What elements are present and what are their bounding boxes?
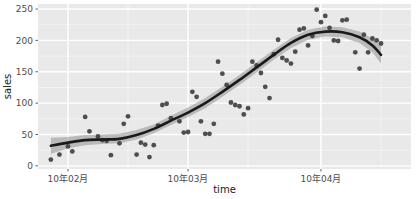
- scatter-plot-svg: 050100150200250 10年02月10年03月10年04月 time …: [0, 0, 417, 199]
- x-tick-label: 10年04月: [301, 173, 342, 184]
- chart-container: 050100150200250 10年02月10年03月10年04月 time …: [0, 0, 417, 199]
- y-axis-title: sales: [2, 74, 13, 99]
- y-tick-label: 100: [16, 98, 33, 108]
- y-tick-label: 0: [27, 161, 33, 171]
- y-tick-label: 250: [16, 4, 33, 14]
- y-tick-label: 150: [16, 67, 33, 77]
- x-tick-label: 10年03月: [168, 173, 209, 184]
- y-tick-label: 200: [16, 36, 33, 46]
- x-axis-title: time: [213, 184, 236, 195]
- y-tick-label: 50: [22, 130, 34, 140]
- x-tick-label: 10年02月: [48, 173, 89, 184]
